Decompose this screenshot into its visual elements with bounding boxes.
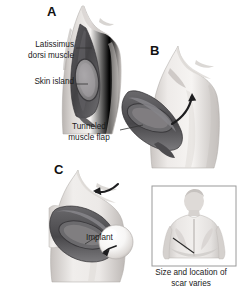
medical-illustration-figure: A B C Latissimus dorsi muscle Skin islan… bbox=[0, 0, 244, 300]
panel-a-artwork bbox=[62, 6, 121, 134]
panel-c-artwork bbox=[49, 170, 133, 282]
label-tunneled-muscle-flap: Tunneled muscle flap bbox=[58, 122, 120, 143]
panel-letter-a: A bbox=[47, 4, 56, 19]
label-scar-caption: Size and location of scar varies bbox=[140, 268, 242, 289]
label-implant: Implant bbox=[86, 233, 113, 244]
panel-letter-c: C bbox=[54, 162, 63, 177]
label-scar-line2: scar varies bbox=[140, 279, 242, 290]
label-latissimus-line1: Latissimus bbox=[6, 40, 74, 51]
label-scar-line1: Size and location of bbox=[140, 268, 242, 279]
label-latissimus-line2: dorsi muscle bbox=[6, 51, 74, 62]
panel-letter-b: B bbox=[150, 43, 159, 58]
label-latissimus-dorsi-muscle: Latissimus dorsi muscle bbox=[6, 40, 74, 61]
label-tunneled-line1: Tunneled bbox=[58, 122, 120, 133]
label-tunneled-line2: muscle flap bbox=[58, 133, 120, 144]
back-view-inset-artwork bbox=[152, 186, 236, 266]
panel-b-artwork bbox=[120, 46, 219, 168]
label-skin-island: Skin island bbox=[6, 77, 74, 88]
